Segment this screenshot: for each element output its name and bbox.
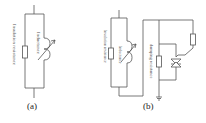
insulation-resistor-a xyxy=(23,46,28,58)
caption-a: (a) xyxy=(27,101,37,111)
label-insulation-resistance-a: Insulation resistance xyxy=(12,24,17,65)
label-insulation-resistance-b: Insulation resistance xyxy=(103,30,108,63)
label-damping-resistance: damping resistance xyxy=(149,44,154,79)
diode-symbol xyxy=(171,59,181,67)
caption-b: (b) xyxy=(143,101,154,111)
label-inductance-b: Inductance xyxy=(118,46,123,64)
right-resistor xyxy=(191,34,196,45)
damping-resistor xyxy=(157,56,162,67)
insulation-resistor-b xyxy=(109,48,114,59)
label-inductance-a: Inductance xyxy=(36,32,41,54)
ground-symbol xyxy=(156,97,162,100)
